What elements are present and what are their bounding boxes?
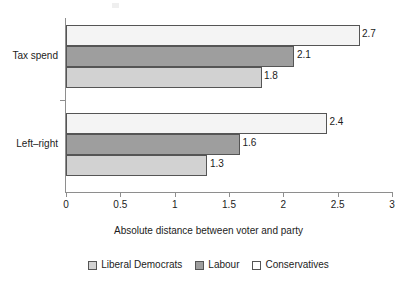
category-label-left-right: Left–right xyxy=(16,138,58,150)
bar-tax-spend-liberal-democrats xyxy=(66,67,262,88)
x-tick-label-3: 3 xyxy=(389,199,395,211)
legend-item-labour: Labour xyxy=(195,259,239,271)
category-axis-mid-tick xyxy=(60,100,66,101)
x-tick-label-1.5: 1.5 xyxy=(222,199,236,211)
x-tick-label-1: 1 xyxy=(172,199,178,211)
bar-value-left-right-labour: 1.6 xyxy=(243,137,257,148)
x-tick-label-2.5: 2.5 xyxy=(331,199,345,211)
legend-swatch-icon-labour xyxy=(195,261,204,270)
x-axis-title: Absolute distance between voter and part… xyxy=(0,225,417,237)
x-tick-0.5 xyxy=(120,192,121,197)
x-tick-2.5 xyxy=(338,192,339,197)
legend-swatch-icon-liberal-democrats xyxy=(88,261,97,270)
legend-item-conservatives: Conservatives xyxy=(252,259,328,271)
x-tick-1 xyxy=(175,192,176,197)
bar-chart-figure: Tax spend Left–right 2.7 2.1 1.8 2.4 1.6… xyxy=(0,0,417,283)
x-tick-3 xyxy=(392,192,393,197)
bar-tax-spend-labour xyxy=(66,46,294,67)
x-tick-label-0: 0 xyxy=(63,199,69,211)
plot-area: 2.7 2.1 1.8 2.4 1.6 1.3 0 0.5 1 1.5 2 2.… xyxy=(66,18,392,192)
legend-label-liberal-democrats: Liberal Democrats xyxy=(101,259,182,271)
category-label-tax-spend: Tax spend xyxy=(12,50,58,62)
bar-value-tax-spend-labour: 2.1 xyxy=(297,49,311,60)
x-tick-2 xyxy=(283,192,284,197)
legend-swatch-icon-conservatives xyxy=(252,261,261,270)
legend-item-liberal-democrats: Liberal Democrats xyxy=(88,259,182,271)
legend-label-labour: Labour xyxy=(208,259,239,271)
bar-value-left-right-conservatives: 2.4 xyxy=(330,116,344,127)
bar-tax-spend-conservatives xyxy=(66,25,360,46)
legend-label-conservatives: Conservatives xyxy=(265,259,328,271)
bar-value-tax-spend-conservatives: 2.7 xyxy=(362,28,376,39)
bar-left-right-labour xyxy=(66,134,240,155)
bar-value-tax-spend-liberal-democrats: 1.8 xyxy=(264,70,278,81)
x-tick-label-0.5: 0.5 xyxy=(113,199,127,211)
bar-left-right-liberal-democrats xyxy=(66,155,207,176)
bar-value-left-right-liberal-democrats: 1.3 xyxy=(210,158,224,169)
scan-artifact xyxy=(112,3,119,8)
x-tick-label-2: 2 xyxy=(281,199,287,211)
chart-legend: Liberal Democrats Labour Conservatives xyxy=(0,259,417,271)
x-tick-0 xyxy=(66,192,67,197)
x-tick-1.5 xyxy=(229,192,230,197)
bar-left-right-conservatives xyxy=(66,113,327,134)
